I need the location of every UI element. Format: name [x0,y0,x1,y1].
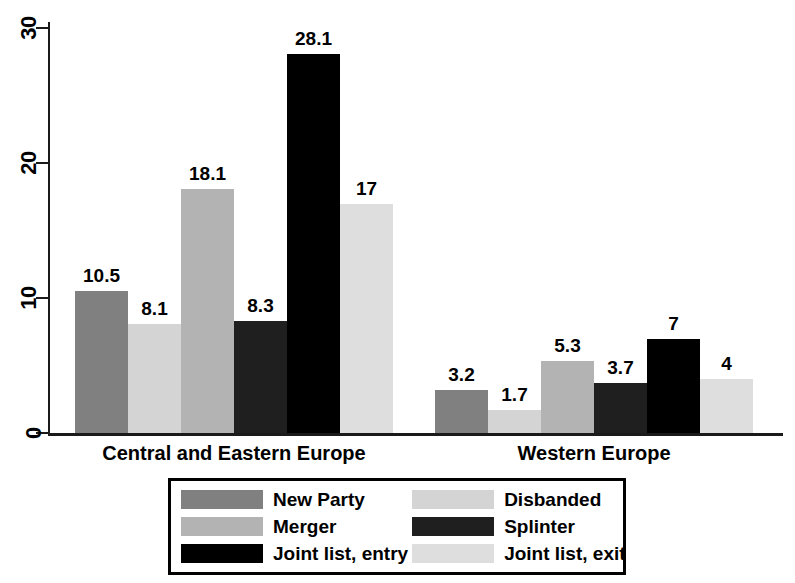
bar: 10.5 [75,0,128,433]
bar-rect [594,383,647,433]
legend-swatch [412,544,494,563]
bar-value-label: 17 [356,179,377,198]
bar-rect [287,54,340,433]
bar-rect [700,379,753,433]
bars-layer: 10.58.118.18.328.1173.21.75.33.774 [0,0,795,470]
bar-value-label: 4 [721,354,732,373]
legend-item: Joint list, entry [181,540,408,567]
legend-swatch [181,544,263,563]
bar: 3.2 [435,0,488,433]
legend-swatch [181,490,263,509]
bar-rect [435,390,488,433]
bar-rect [541,361,594,433]
legend-label: New Party [273,490,365,509]
bar: 5.3 [541,0,594,433]
bar: 1.7 [488,0,541,433]
legend-item: Disbanded [412,486,625,513]
legend-swatch [412,517,494,536]
bar: 4 [700,0,753,433]
bar-value-label: 1.7 [501,385,527,404]
bar-value-label: 3.2 [448,365,474,384]
bar: 3.7 [594,0,647,433]
legend-item: Splinter [412,513,625,540]
legend-item: New Party [181,486,408,513]
legend-label: Splinter [504,517,575,536]
bar: 8.1 [128,0,181,433]
bar-value-label: 5.3 [554,336,580,355]
bar: 17 [340,0,393,433]
bar-rect [340,204,393,434]
bar-rect [75,291,128,433]
bar-value-label: 8.3 [247,296,273,315]
legend-item: Merger [181,513,408,540]
bar-rect [234,321,287,433]
bar: 7 [647,0,700,433]
bar-value-label: 7 [668,314,679,333]
bar: 8.3 [234,0,287,433]
legend-label: Merger [273,517,336,536]
group-label: Western Europe [435,443,753,463]
bar-value-label: 10.5 [83,266,120,285]
legend-label: Joint list, exit [504,544,625,563]
legend-swatch [412,490,494,509]
bar-value-label: 8.1 [141,299,167,318]
bar-rect [128,324,181,433]
legend-item: Joint list, exit [412,540,625,567]
legend-label: Joint list, entry [273,544,408,563]
bar-value-label: 28.1 [295,29,332,48]
bar-rect [181,189,234,433]
bar: 18.1 [181,0,234,433]
legend: New PartyDisbandedMergerSplinterJoint li… [168,478,626,575]
bar-value-label: 3.7 [607,358,633,377]
legend-swatch [181,517,263,536]
bar-rect [488,410,541,433]
group-label: Central and Eastern Europe [75,443,393,463]
legend-label: Disbanded [504,490,601,509]
bar: 28.1 [287,0,340,433]
bar-value-label: 18.1 [189,164,226,183]
bar-chart: 3020100 10.58.118.18.328.1173.21.75.33.7… [0,0,795,583]
bar-rect [647,339,700,434]
plot-area: 3020100 10.58.118.18.328.1173.21.75.33.7… [0,0,795,470]
